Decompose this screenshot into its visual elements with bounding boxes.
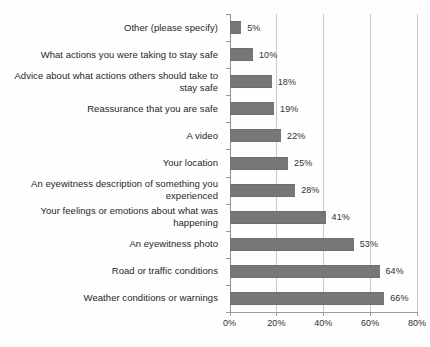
bar	[230, 292, 385, 305]
bar-value-label: 66%	[390, 293, 408, 303]
category-label: Advice about what actions others should …	[0, 70, 224, 94]
gridline-80	[417, 14, 418, 312]
bar-row: 19%	[230, 102, 418, 115]
bar	[230, 21, 242, 34]
bar-value-label: 5%	[247, 23, 260, 33]
category-label: Your location	[0, 157, 224, 169]
bar-value-label: 25%	[294, 158, 312, 168]
category-label: An eyewitness photo	[0, 238, 224, 250]
bar-row: 64%	[230, 265, 418, 278]
category-tick	[226, 231, 230, 232]
category-tick	[226, 149, 230, 150]
bar	[230, 75, 272, 88]
category-tick	[226, 258, 230, 259]
bar-value-label: 10%	[259, 50, 277, 60]
bar-row: 18%	[230, 75, 418, 88]
bar	[230, 265, 380, 278]
category-label: Weather conditions or warnings	[0, 292, 224, 304]
x-tick-mark	[230, 312, 231, 316]
bar	[230, 129, 282, 142]
bar	[230, 184, 296, 197]
category-tick	[226, 177, 230, 178]
category-label: A video	[0, 130, 224, 142]
bar-value-label: 41%	[332, 212, 350, 222]
bar-row: 22%	[230, 129, 418, 142]
bars-layer: 5%10%18%19%22%25%28%41%53%64%66%	[230, 14, 418, 312]
bar-value-label: 64%	[386, 266, 404, 276]
x-tick-label: 40%	[314, 318, 332, 329]
bar-row: 25%	[230, 157, 418, 170]
category-label: Your feelings or emotions about what was…	[0, 205, 224, 229]
bar-chart-figure: 5%10%18%19%22%25%28%41%53%64%66% Other (…	[0, 0, 430, 347]
x-tick-label: 80%	[408, 318, 426, 329]
bar-row: 28%	[230, 184, 418, 197]
bar-value-label: 18%	[278, 77, 296, 87]
category-tick	[226, 285, 230, 286]
bar-row: 41%	[230, 211, 418, 224]
bar-value-label: 22%	[287, 131, 305, 141]
x-tick-mark	[417, 312, 418, 316]
bar	[230, 157, 289, 170]
bar-row: 5%	[230, 21, 418, 34]
x-tick-label: 60%	[361, 318, 379, 329]
category-tick	[226, 122, 230, 123]
x-tick-label: 0%	[223, 318, 236, 329]
x-axis-tick-labels: 0%20%40%60%80%	[0, 318, 430, 334]
category-label: Other (please specify)	[0, 22, 224, 34]
x-tick-label: 20%	[267, 318, 285, 329]
x-tick-mark	[323, 312, 324, 316]
bar	[230, 211, 326, 224]
category-label: What actions you were taking to stay saf…	[0, 49, 224, 61]
bar-row: 10%	[230, 48, 418, 61]
bar-value-label: 53%	[360, 239, 378, 249]
category-label: An eyewitness description of something y…	[0, 178, 224, 202]
x-tick-mark	[370, 312, 371, 316]
category-axis-labels: Other (please specify)What actions you w…	[0, 14, 224, 312]
category-tick	[226, 14, 230, 15]
bar-value-label: 19%	[280, 104, 298, 114]
category-tick	[226, 95, 230, 96]
category-tick	[226, 68, 230, 69]
bar	[230, 238, 354, 251]
plot-area: 5%10%18%19%22%25%28%41%53%64%66%	[230, 14, 418, 312]
bar	[230, 102, 275, 115]
bar	[230, 48, 253, 61]
category-label: Road or traffic conditions	[0, 265, 224, 277]
bar-value-label: 28%	[301, 185, 319, 195]
x-tick-mark	[276, 312, 277, 316]
bar-row: 53%	[230, 238, 418, 251]
category-tick	[226, 204, 230, 205]
category-label: Reassurance that you are safe	[0, 103, 224, 115]
category-tick	[226, 41, 230, 42]
bar-row: 66%	[230, 292, 418, 305]
